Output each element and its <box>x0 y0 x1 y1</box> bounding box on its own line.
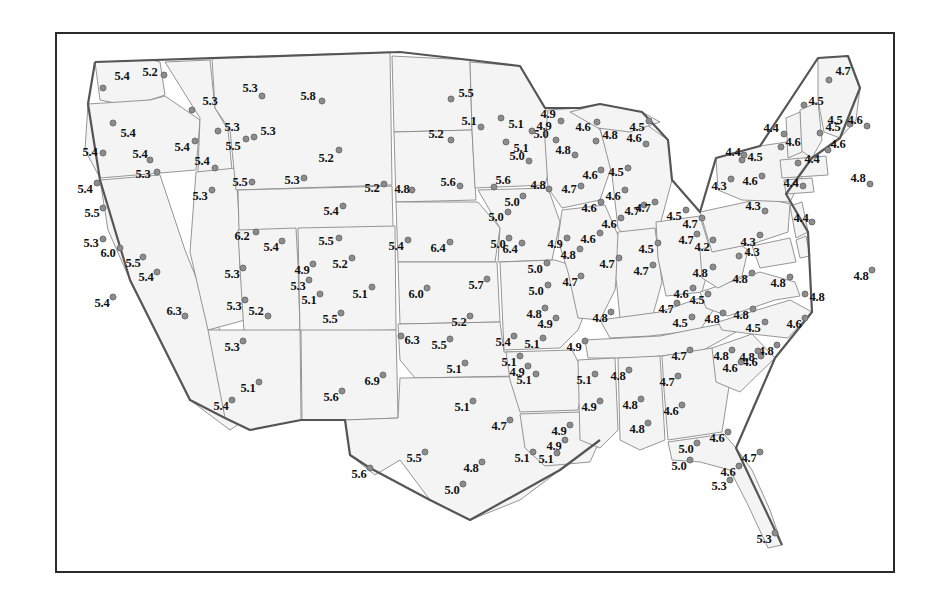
data-point-label: 5.3 <box>290 279 305 294</box>
data-point-dot <box>699 215 706 222</box>
data-point-label: 5.0 <box>509 149 524 164</box>
data-point-dot <box>687 457 694 464</box>
data-point-label: 4.9 <box>551 424 566 439</box>
data-point-dot <box>192 138 199 145</box>
data-point-label: 5.3 <box>226 299 241 314</box>
data-point-label: 4.7 <box>562 275 577 290</box>
data-point-dot <box>519 240 526 247</box>
data-point-label: 5.3 <box>192 189 207 204</box>
data-point-label: 4.4 <box>804 152 819 167</box>
data-point-dot <box>592 371 599 378</box>
data-point-label: 5.4 <box>388 239 403 254</box>
data-point-dot <box>567 422 574 429</box>
data-point-label: 5.5 <box>431 338 446 353</box>
data-point-label: 4.3 <box>711 179 726 194</box>
data-point-label: 4.4 <box>793 211 808 226</box>
data-point-label: 4.8 <box>394 182 409 197</box>
data-point-dot <box>507 417 514 424</box>
data-point-dot <box>597 398 604 405</box>
data-point-dot <box>750 306 757 313</box>
data-point-dot <box>689 314 696 321</box>
data-point-dot <box>864 123 871 130</box>
data-point-label: 4.6 <box>742 174 757 189</box>
data-point-label: 5.0 <box>488 210 503 225</box>
data-point-label: 5.1 <box>301 293 316 308</box>
data-point-label: 5.1 <box>514 451 529 466</box>
data-point-label: 5.0 <box>528 284 543 299</box>
data-point-label: 4.3 <box>745 199 760 214</box>
data-point-label: 4.8 <box>602 128 617 143</box>
data-point-dot <box>306 277 313 284</box>
data-point-label: 5.6 <box>495 173 510 188</box>
data-point-dot <box>801 102 808 109</box>
data-point-dot <box>369 284 376 291</box>
data-point-dot <box>338 310 345 317</box>
data-point-dot <box>652 199 659 206</box>
data-point-dot <box>655 240 662 247</box>
data-point-dot <box>240 338 247 345</box>
data-point-dot <box>577 246 584 253</box>
data-point-label: 4.5 <box>808 94 823 109</box>
data-point-label: 5.1 <box>508 117 523 132</box>
data-point-dot <box>720 310 727 317</box>
data-point-dot <box>339 388 346 395</box>
data-point-dot <box>638 396 645 403</box>
data-point-label: 4.2 <box>694 240 709 255</box>
data-point-dot <box>209 187 216 194</box>
data-point-label: 4.6 <box>709 431 724 446</box>
data-point-label: 4.5 <box>689 293 704 308</box>
data-point-dot <box>367 465 374 472</box>
data-point-dot <box>243 136 250 143</box>
data-point-dot <box>154 169 161 176</box>
data-point-label: 4.8 <box>629 422 644 437</box>
data-point-label: 5.5 <box>125 256 140 271</box>
data-point-dot <box>582 338 589 345</box>
data-point-dot <box>757 449 764 456</box>
data-point-dot <box>279 238 286 245</box>
data-point-dot <box>759 173 766 180</box>
data-point-label: 4.8 <box>739 350 754 365</box>
data-point-dot <box>256 379 263 386</box>
data-point-dot <box>110 120 117 127</box>
data-point-dot <box>520 193 527 200</box>
data-point-label: 5.1 <box>446 362 461 377</box>
data-point-label: 5.5 <box>84 206 99 221</box>
data-point-label: 4.5 <box>745 321 760 336</box>
data-point-dot <box>526 158 533 165</box>
data-point-label: 5.3 <box>260 124 275 139</box>
data-point-dot <box>800 183 807 190</box>
data-point-dot <box>736 253 743 260</box>
data-point-label: 4.7 <box>491 419 506 434</box>
data-point-label: 5.0 <box>504 195 519 210</box>
data-point-label: 4.9 <box>537 317 552 332</box>
data-point-dot <box>310 261 317 268</box>
data-point-dot <box>398 333 405 340</box>
data-point-label: 5.5 <box>322 312 337 327</box>
data-point-dot <box>409 187 416 194</box>
data-point-dot <box>554 450 561 457</box>
data-point-dot <box>778 144 785 151</box>
data-point-label: 5.4 <box>263 240 278 255</box>
data-point-dot <box>212 165 219 172</box>
data-point-label: 4.7 <box>671 349 686 364</box>
data-point-label: 4.8 <box>555 143 570 158</box>
data-point-label: 5.7 <box>468 278 483 293</box>
data-point-label: 4.8 <box>463 461 478 476</box>
data-point-dot <box>110 294 117 301</box>
data-point-dot <box>229 397 236 404</box>
data-point-label: 4.5 <box>666 209 681 224</box>
data-point-label: 5.3 <box>83 236 98 251</box>
data-point-label: 4.5 <box>638 242 653 257</box>
data-point-label: 5.3 <box>224 267 239 282</box>
data-point-label: 5.0 <box>678 442 693 457</box>
data-point-dot <box>100 236 107 243</box>
data-point-label: 4.9 <box>566 340 581 355</box>
data-point-label: 4.6 <box>673 287 688 302</box>
data-point-dot <box>625 165 632 172</box>
data-point-dot <box>540 335 547 342</box>
data-point-label: 5.1 <box>524 337 539 352</box>
data-point-dot <box>650 262 657 269</box>
data-point-label: 5.4 <box>120 126 135 141</box>
data-point-dot <box>545 282 552 289</box>
data-point-label: 5.2 <box>428 127 443 142</box>
